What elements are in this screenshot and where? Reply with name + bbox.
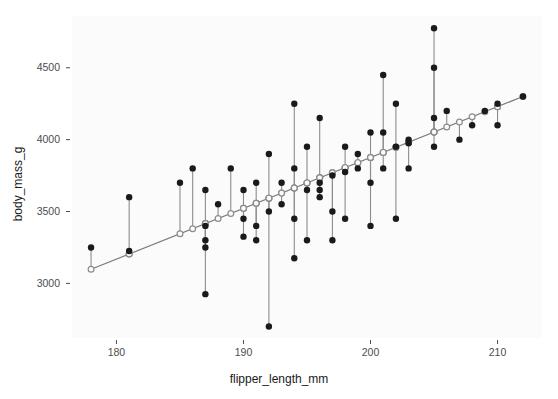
- x-tick-label: 200: [341, 347, 401, 358]
- fitted-point: [215, 216, 221, 222]
- observed-point: [240, 215, 246, 221]
- observed-point: [317, 194, 323, 200]
- y-axis-title: body_mass_g: [11, 104, 25, 264]
- fitted-point: [291, 185, 297, 191]
- observed-point: [291, 255, 297, 261]
- observed-point: [189, 165, 195, 171]
- fitted-point: [444, 124, 450, 130]
- x-tick-label: 210: [468, 347, 528, 358]
- fitted-point: [279, 190, 285, 196]
- observed-point: [202, 237, 208, 243]
- observed-point: [202, 244, 208, 250]
- observed-point: [304, 237, 310, 243]
- observed-point: [431, 25, 437, 31]
- observed-point: [342, 144, 348, 150]
- fitted-point: [304, 180, 310, 186]
- observed-point: [177, 180, 183, 186]
- observed-point: [355, 165, 361, 171]
- fitted-points-layer: [88, 94, 526, 273]
- observed-point: [126, 194, 132, 200]
- fitted-point: [368, 155, 374, 161]
- residual-segments-layer: [91, 28, 497, 326]
- observed-point: [393, 100, 399, 106]
- x-axis-title: flipper_length_mm: [0, 372, 558, 386]
- observed-point: [444, 108, 450, 114]
- observed-point: [393, 215, 399, 221]
- fitted-point: [253, 200, 259, 206]
- observed-point: [291, 165, 297, 171]
- observed-point: [202, 291, 208, 297]
- observed-point: [494, 100, 500, 106]
- x-tick-label: 190: [213, 347, 273, 358]
- observed-point: [494, 122, 500, 128]
- fitted-point: [88, 266, 94, 272]
- observed-point: [380, 72, 386, 78]
- observed-point: [266, 151, 272, 157]
- observed-point: [278, 180, 284, 186]
- observed-point: [88, 244, 94, 250]
- observed-point: [253, 223, 259, 229]
- observed-point: [431, 144, 437, 150]
- observed-point: [329, 172, 335, 178]
- observed-point: [126, 248, 132, 254]
- observed-point: [253, 180, 259, 186]
- observed-point: [291, 100, 297, 106]
- observed-point: [405, 140, 411, 146]
- observed-point: [431, 115, 437, 121]
- observed-point: [342, 215, 348, 221]
- observed-point: [253, 237, 259, 243]
- observed-point: [202, 187, 208, 193]
- fitted-point: [431, 129, 437, 135]
- fitted-point: [355, 160, 361, 166]
- observed-point: [367, 129, 373, 135]
- observed-point: [329, 237, 335, 243]
- observed-point: [405, 165, 411, 171]
- observed-point: [291, 215, 297, 221]
- observed-point: [367, 223, 373, 229]
- plot-canvas: [0, 0, 558, 399]
- observed-point: [266, 208, 272, 214]
- observed-point: [367, 180, 373, 186]
- residual-scatter-chart: 1801902002103000350040004500 flipper_len…: [0, 0, 558, 399]
- observed-point: [317, 180, 323, 186]
- observed-point: [469, 122, 475, 128]
- observed-point: [240, 233, 246, 239]
- fitted-point: [177, 231, 183, 237]
- observed-point: [202, 223, 208, 229]
- observed-point: [456, 136, 462, 142]
- observed-point: [431, 65, 437, 71]
- observed-point: [380, 165, 386, 171]
- fitted-point: [380, 150, 386, 156]
- fitted-point: [469, 114, 475, 120]
- observed-point: [342, 169, 348, 175]
- observed-point: [266, 323, 272, 329]
- fitted-point: [241, 205, 247, 211]
- fitted-point: [266, 195, 272, 201]
- x-tick-label: 180: [86, 347, 146, 358]
- observed-point: [278, 201, 284, 207]
- observed-point: [317, 115, 323, 121]
- fitted-point: [457, 119, 463, 125]
- observed-point: [240, 187, 246, 193]
- y-tick-label: 3000: [2, 278, 60, 289]
- observed-point: [215, 201, 221, 207]
- fitted-point: [228, 211, 234, 217]
- fitted-point: [190, 226, 196, 232]
- observed-point: [304, 187, 310, 193]
- observed-point: [380, 129, 386, 135]
- observed-point: [520, 93, 526, 99]
- observed-point: [228, 165, 234, 171]
- observed-point: [329, 208, 335, 214]
- observed-point: [393, 144, 399, 150]
- observed-point: [304, 144, 310, 150]
- y-tick-label: 4500: [2, 62, 60, 73]
- observed-point: [355, 151, 361, 157]
- observed-point: [317, 187, 323, 193]
- observed-point: [482, 108, 488, 114]
